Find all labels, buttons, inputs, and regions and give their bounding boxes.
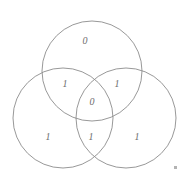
venn-diagram-figure: 0 1 1 0 1 1 1 <box>0 0 189 180</box>
venn-circles-svg <box>0 0 189 180</box>
region-label-left-only: 1 <box>38 132 58 142</box>
corner-artifact-mark <box>174 166 177 169</box>
region-label-top-only: 0 <box>75 36 95 46</box>
region-label-center-all-three: 0 <box>82 97 102 107</box>
region-label-left-right-overlap: 1 <box>81 132 101 142</box>
region-label-top-right-overlap: 1 <box>107 79 127 89</box>
region-label-right-only: 1 <box>127 132 147 142</box>
region-label-top-left-overlap: 1 <box>55 79 75 89</box>
